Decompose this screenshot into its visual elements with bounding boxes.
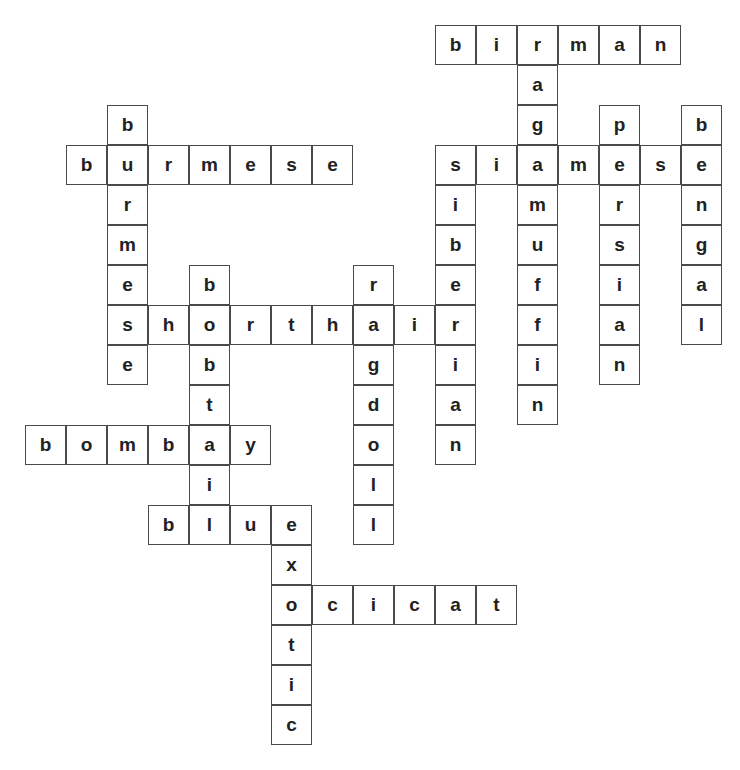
crossword-cell: i xyxy=(271,665,312,705)
crossword-cell: a xyxy=(189,425,230,465)
crossword-cell: l xyxy=(189,505,230,545)
crossword-cell: e xyxy=(312,145,353,185)
crossword-cell: e xyxy=(107,345,148,385)
crossword-cell: m xyxy=(107,225,148,265)
crossword-cell: y xyxy=(230,425,271,465)
crossword-cell: b xyxy=(66,145,107,185)
crossword-cell: e xyxy=(230,145,271,185)
crossword-cell: b xyxy=(148,505,189,545)
crossword-cell: o xyxy=(189,305,230,345)
crossword-cell: n xyxy=(435,425,476,465)
crossword-cell: d xyxy=(353,385,394,425)
crossword-cell: g xyxy=(681,225,722,265)
crossword-cell: o xyxy=(271,585,312,625)
crossword-cell: e xyxy=(599,145,640,185)
crossword-cell: t xyxy=(271,305,312,345)
crossword-cell: r xyxy=(107,185,148,225)
crossword-cell: i xyxy=(394,305,435,345)
crossword-cell: b xyxy=(189,265,230,305)
crossword-cell: f xyxy=(517,305,558,345)
crossword-cell: t xyxy=(476,585,517,625)
crossword-cell: i xyxy=(517,345,558,385)
crossword-cell: m xyxy=(189,145,230,185)
crossword-cell: m xyxy=(558,25,599,65)
crossword-cell: h xyxy=(148,305,189,345)
crossword-cell: i xyxy=(476,145,517,185)
crossword-cell: e xyxy=(107,265,148,305)
crossword-cell: n xyxy=(517,385,558,425)
crossword-cell: s xyxy=(599,225,640,265)
crossword-cell: i xyxy=(189,465,230,505)
crossword-cell: s xyxy=(435,145,476,185)
crossword-cell: o xyxy=(353,425,394,465)
crossword-cell: t xyxy=(271,625,312,665)
crossword-cell: i xyxy=(435,345,476,385)
crossword-cell: c xyxy=(312,585,353,625)
crossword-cell: a xyxy=(599,305,640,345)
crossword-cell: r xyxy=(148,145,189,185)
crossword-cell: b xyxy=(148,425,189,465)
crossword-cell: u xyxy=(517,225,558,265)
crossword-cell: x xyxy=(271,545,312,585)
crossword-cell: l xyxy=(353,505,394,545)
crossword-cell: r xyxy=(599,185,640,225)
crossword-cell: c xyxy=(394,585,435,625)
crossword-cell: m xyxy=(517,185,558,225)
crossword-cell: n xyxy=(599,345,640,385)
crossword-cell: r xyxy=(517,25,558,65)
crossword-cell: i xyxy=(353,585,394,625)
crossword-cell: b xyxy=(435,25,476,65)
crossword-cell: r xyxy=(353,265,394,305)
crossword-cell: s xyxy=(271,145,312,185)
crossword-cell: e xyxy=(271,505,312,545)
crossword-cell: r xyxy=(230,305,271,345)
crossword-cell: i xyxy=(476,25,517,65)
crossword-cell: m xyxy=(558,145,599,185)
crossword-cell: l xyxy=(681,305,722,345)
crossword-cell: e xyxy=(435,265,476,305)
crossword-grid: birmanagamuffinpersianbengalburmesebrmes… xyxy=(0,0,740,770)
crossword-cell: u xyxy=(230,505,271,545)
crossword-cell: f xyxy=(517,265,558,305)
crossword-cell: b xyxy=(107,105,148,145)
crossword-cell: g xyxy=(517,105,558,145)
crossword-cell: a xyxy=(353,305,394,345)
crossword-cell: r xyxy=(435,305,476,345)
crossword-cell: e xyxy=(681,145,722,185)
crossword-cell: i xyxy=(599,265,640,305)
crossword-cell: s xyxy=(107,305,148,345)
crossword-cell: a xyxy=(599,25,640,65)
crossword-cell: a xyxy=(435,385,476,425)
crossword-cell: p xyxy=(599,105,640,145)
crossword-cell: h xyxy=(312,305,353,345)
crossword-cell: b xyxy=(681,105,722,145)
crossword-cell: l xyxy=(353,465,394,505)
crossword-cell: a xyxy=(435,585,476,625)
crossword-cell: c xyxy=(271,705,312,745)
crossword-cell: n xyxy=(640,25,681,65)
crossword-cell: o xyxy=(66,425,107,465)
crossword-cell: a xyxy=(517,65,558,105)
crossword-cell: t xyxy=(189,385,230,425)
crossword-cell: b xyxy=(189,345,230,385)
crossword-cell: s xyxy=(640,145,681,185)
crossword-cell: u xyxy=(107,145,148,185)
crossword-cell: b xyxy=(435,225,476,265)
crossword-cell: i xyxy=(435,185,476,225)
crossword-cell: a xyxy=(517,145,558,185)
crossword-cell: a xyxy=(681,265,722,305)
crossword-cell: g xyxy=(353,345,394,385)
crossword-cell: n xyxy=(681,185,722,225)
crossword-cell: m xyxy=(107,425,148,465)
crossword-cell: b xyxy=(25,425,66,465)
